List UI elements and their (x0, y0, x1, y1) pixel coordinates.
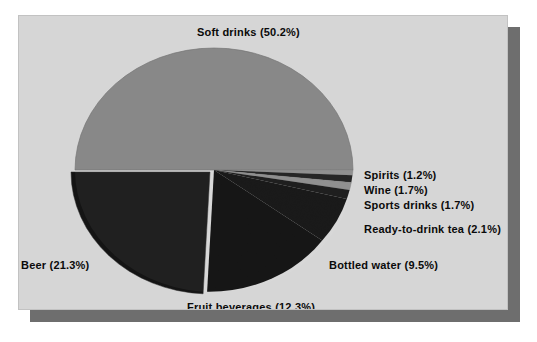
pie-grain-overlay (75, 48, 353, 292)
pie-label-spirits: Spirits (1.2%) (364, 169, 437, 182)
pie-label-fruit-beverages: Fruit beverages (12.3%) (187, 301, 315, 310)
pie-label-bottled-water: Bottled water (9.5%) (329, 259, 438, 272)
pie-label-ready-to-drink-tea: Ready-to-drink tea (2.1%) (364, 223, 501, 236)
pie-plot-area: Soft drinks (50.2%) Spirits (1.2%) Wine … (19, 16, 508, 310)
pie-label-soft-drinks: Soft drinks (50.2%) (197, 26, 300, 39)
pie-chart-panel: Soft drinks (50.2%) Spirits (1.2%) Wine … (18, 15, 508, 310)
pie-label-sports-drinks: Sports drinks (1.7%) (364, 199, 474, 212)
pie-label-wine: Wine (1.7%) (364, 184, 428, 197)
figure-root: Soft drinks (50.2%) Spirits (1.2%) Wine … (0, 0, 537, 342)
pie-label-beer: Beer (21.3%) (21, 259, 89, 272)
